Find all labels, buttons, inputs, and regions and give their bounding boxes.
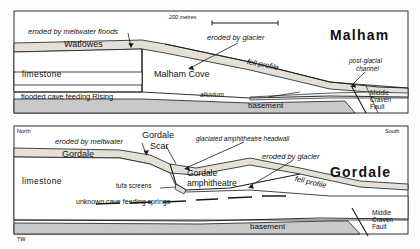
- label-middle-craven-fault-line3-malham: Fault: [370, 103, 384, 110]
- label-middle-craven-fault-line3-gordale: Fault: [372, 223, 386, 230]
- label-limestone-malham: limestone: [22, 69, 62, 79]
- annotation-eroded-by-meltwater-gordale: eroded by meltwater: [55, 137, 123, 146]
- label-alluvium: alluvium: [200, 91, 224, 98]
- label-gordale-scar-line2: Scar: [150, 141, 169, 151]
- panel-malham: 200 metres eroded by meltwater floods Wa…: [0, 0, 420, 125]
- annotation-post-glacial: post-glacial: [349, 57, 382, 64]
- annotation-eroded-by-meltwater-floods: eroded by meltwater floods: [28, 27, 118, 36]
- label-gordale-scar-line1: Gordale: [142, 130, 174, 140]
- label-flooded-cave-feeding-rising: flooded cave feeding Rising: [21, 92, 113, 101]
- label-limestone-gordale: limestone: [22, 176, 62, 186]
- label-malham-cove: Malham Cove: [154, 69, 210, 79]
- region-title-malham: Malham: [330, 27, 389, 43]
- region-title-gordale: Gordale: [330, 164, 391, 180]
- geological-cross-section-figure: 200 metres eroded by meltwater floods Wa…: [0, 0, 420, 249]
- label-basement-malham: basement: [248, 101, 283, 110]
- annotation-eroded-by-glacier-gordale: eroded by glacier: [262, 152, 320, 161]
- label-watlowes: Watlowes: [64, 39, 103, 49]
- label-middle-craven-fault-line2-gordale: Craven: [372, 216, 393, 223]
- orientation-north: North: [17, 128, 30, 134]
- label-middle-craven-fault-line2-malham: Craven: [370, 96, 391, 103]
- credit-initials: TW: [17, 236, 26, 242]
- label-unknown-cave-feeding-springs: unknown cave feeding springs: [76, 198, 170, 205]
- label-gordale-amphitheatre-line2: amphitheatre: [187, 178, 237, 188]
- label-basement-gordale: basement: [250, 222, 285, 231]
- scale-bar-label: 200 metres: [169, 14, 197, 20]
- annotation-post-glacial-channel: channel: [356, 65, 379, 72]
- annotation-eroded-by-glacier-malham: eroded by glacier: [207, 33, 265, 42]
- orientation-south: South: [385, 128, 399, 134]
- panel-gordale: North South eroded by meltwater Gordale …: [0, 124, 420, 249]
- label-tufa-screens: tufa screens: [116, 182, 151, 189]
- annotation-glaciated-amphitheatre-headwall: glaciated amphitheatre headwall: [196, 135, 289, 142]
- label-gordale-terrace: Gordale: [62, 149, 94, 159]
- label-middle-craven-fault-line1-gordale: Middle: [372, 209, 391, 216]
- label-middle-craven-fault-line1-malham: Middle: [370, 89, 389, 96]
- label-gordale-amphitheatre-line1: Gordale: [187, 168, 217, 178]
